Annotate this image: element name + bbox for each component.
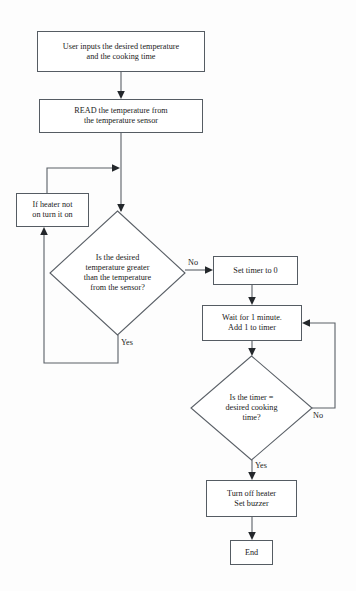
arrowhead-heater-to-trunk [112, 164, 120, 172]
arrowhead-decision-timer-yes [248, 472, 256, 480]
arrowhead-decision-timer-no [302, 319, 310, 327]
node-end-line-1: End [245, 548, 258, 558]
decision-temperature-shape [50, 211, 185, 335]
node-decision-timer[interactable]: Is the timer = desired cooking time? [191, 356, 312, 460]
arrowhead-input-to-read [117, 91, 125, 99]
edge-decision-timer-no [308, 323, 335, 408]
edge-label-decision-timer-no: No [313, 411, 323, 420]
edge-label-decision-timer-yes: Yes [255, 461, 267, 470]
node-set-timer[interactable]: Set timer to 0 [213, 256, 298, 285]
node-wait-minute-line-1: Wait for 1 minute. [222, 313, 282, 323]
node-decision-temperature[interactable]: Is the desired temperature greater than … [50, 211, 185, 335]
node-wait-minute-line-2: Add 1 to timer [222, 323, 282, 333]
node-user-input-line-2: and the cooking time [63, 52, 179, 62]
node-wait-minute[interactable]: Wait for 1 minute. Add 1 to timer [202, 305, 302, 341]
node-turn-off-heater[interactable]: Turn off heater Set buzzer [206, 480, 297, 517]
flowchart-canvas: User inputs the desired temperature and … [0, 0, 356, 591]
decision-timer-shape [191, 356, 312, 460]
edge-heater-to-trunk [47, 168, 114, 193]
arrowhead-turn-off-to-end [248, 532, 256, 540]
node-read-temperature-line-2: the temperature sensor [74, 116, 167, 126]
node-user-input-line-1: User inputs the desired temperature [63, 42, 179, 52]
node-end[interactable]: End [230, 540, 273, 565]
node-heater-on-line-1: If heater not [32, 200, 72, 210]
node-turn-off-heater-line-2: Set buzzer [227, 499, 276, 509]
arrowhead-set-timer-to-wait [248, 297, 256, 305]
arrowhead-decision-temp-yes [40, 227, 48, 235]
node-read-temperature-line-1: READ the temperature from [74, 106, 167, 116]
node-user-input[interactable]: User inputs the desired temperature and … [37, 31, 205, 72]
node-set-timer-line-1: Set timer to 0 [233, 266, 277, 276]
arrowhead-wait-to-decision-timer [248, 348, 256, 356]
node-read-temperature[interactable]: READ the temperature from the temperatur… [39, 99, 203, 133]
node-turn-off-heater-line-1: Turn off heater [227, 489, 276, 499]
edge-label-decision-temp-no: No [188, 258, 198, 267]
arrowhead-decision-temp-no [205, 266, 213, 274]
edge-label-decision-temp-yes: Yes [121, 338, 133, 347]
